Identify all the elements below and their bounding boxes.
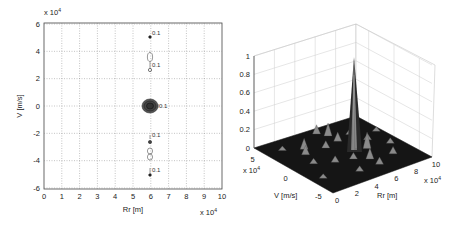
figure: 012345678910 6420-2-4-6 x 104 x 104 Rr [… <box>0 0 457 227</box>
y-axis-label: V [m/s] <box>274 191 297 200</box>
y-tick-labels: 6420-2-4-6 <box>33 20 40 193</box>
z-tick: 1 <box>246 52 250 61</box>
x-axis-label: Rr [m] <box>123 205 143 214</box>
x-tick: 0 <box>42 192 46 201</box>
x-multiplier: x 104 <box>424 175 441 185</box>
svg-text:0.1: 0.1 <box>152 132 161 138</box>
x-tick: 8 <box>184 192 188 201</box>
x-tick: 3 <box>95 192 99 201</box>
z-tick-labels: 00.20.40.60.81 <box>240 52 250 153</box>
y-tick: 4 <box>36 47 40 56</box>
svg-text:0.1: 0.1 <box>152 62 161 68</box>
x-tick: 8 <box>414 167 418 176</box>
z-tick: 0 <box>246 144 250 153</box>
x-tick: 10 <box>218 192 226 201</box>
x-tick: 5 <box>131 192 135 201</box>
y-tick: -2 <box>33 129 40 138</box>
y-tick: 0 <box>283 174 287 183</box>
x-tick: 2 <box>78 192 82 201</box>
svg-text:0.1: 0.1 <box>159 103 168 109</box>
y-multiplier: x 104 <box>243 165 260 175</box>
x-tick: 1 <box>60 192 64 201</box>
x-tick: 6 <box>149 192 153 201</box>
x-axis-label: Rr [m] <box>377 191 397 200</box>
x-tick-labels: 012345678910 <box>42 192 226 201</box>
y-tick: -5 <box>315 192 322 201</box>
z-tick: 0.4 <box>240 107 250 116</box>
y-tick: -4 <box>33 156 40 165</box>
y-axis-label: V [m/s] <box>15 94 24 117</box>
contour-plot: 012345678910 6420-2-4-6 x 104 x 104 Rr [… <box>15 7 226 217</box>
z-tick: 0.8 <box>240 70 250 79</box>
y-tick: -6 <box>33 184 40 193</box>
x-tick: 6 <box>394 174 398 183</box>
svg-text:0.1: 0.1 <box>152 167 161 173</box>
y-tick: 2 <box>36 74 40 83</box>
x-multiplier: x 104 <box>200 207 217 217</box>
x-tick: 4 <box>113 192 117 201</box>
x-tick: 2 <box>355 189 359 198</box>
surface-plot: 00.20.40.60.81 50-5 0246810 x 104 x 104 … <box>240 24 442 205</box>
x-tick: 10 <box>432 160 440 169</box>
x-tick: 9 <box>202 192 206 201</box>
y-tick: 5 <box>250 155 254 164</box>
x-tick: 4 <box>375 182 379 191</box>
y-tick: 0 <box>36 102 40 111</box>
y-tick: 6 <box>36 20 40 29</box>
y-multiplier: x 104 <box>44 7 61 17</box>
z-tick: 0.2 <box>240 125 250 134</box>
x-tick: 7 <box>167 192 171 201</box>
x-tick: 0 <box>335 196 339 205</box>
z-tick: 0.6 <box>240 88 250 97</box>
svg-text:0.1: 0.1 <box>152 30 161 36</box>
